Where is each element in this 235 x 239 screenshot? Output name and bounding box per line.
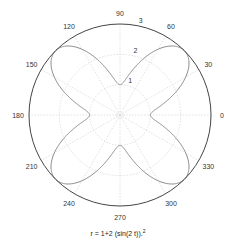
chart-title: r = 1+2 (sin(2 t)).2 [91, 228, 146, 238]
angular-tick-label: 30 [204, 61, 212, 68]
angular-tick-label: 300 [165, 200, 177, 207]
grid-spoke [120, 115, 166, 194]
polar-chart: 1230306090120150180210240270300330 r = 1… [0, 0, 235, 239]
grid-spoke [75, 115, 121, 194]
radial-tick-label: 2 [134, 47, 138, 54]
angular-tick-label: 270 [114, 214, 126, 221]
radial-tick-label: 1 [128, 77, 132, 84]
title-sup: 2 [143, 228, 146, 234]
angular-tick-label: 210 [26, 163, 38, 170]
angular-tick-label: 180 [12, 112, 24, 119]
polar-grid [29, 24, 211, 206]
grid-spoke [75, 36, 121, 115]
angular-tick-label: 150 [26, 61, 38, 68]
angular-tick-label: 330 [202, 163, 214, 170]
grid-spoke [41, 115, 120, 161]
angular-tick-label: 0 [220, 112, 224, 119]
angular-tick-label: 60 [167, 23, 175, 30]
angular-tick-label: 90 [116, 10, 124, 17]
angular-tick-label: 240 [63, 200, 75, 207]
grid-spoke [120, 36, 166, 115]
title-base: r = 1+2 (sin(2 t)). [91, 230, 143, 238]
grid-spoke [41, 70, 120, 116]
radial-tick-label: 3 [139, 17, 143, 24]
grid-spoke [120, 115, 199, 161]
angular-tick-label: 120 [63, 23, 75, 30]
